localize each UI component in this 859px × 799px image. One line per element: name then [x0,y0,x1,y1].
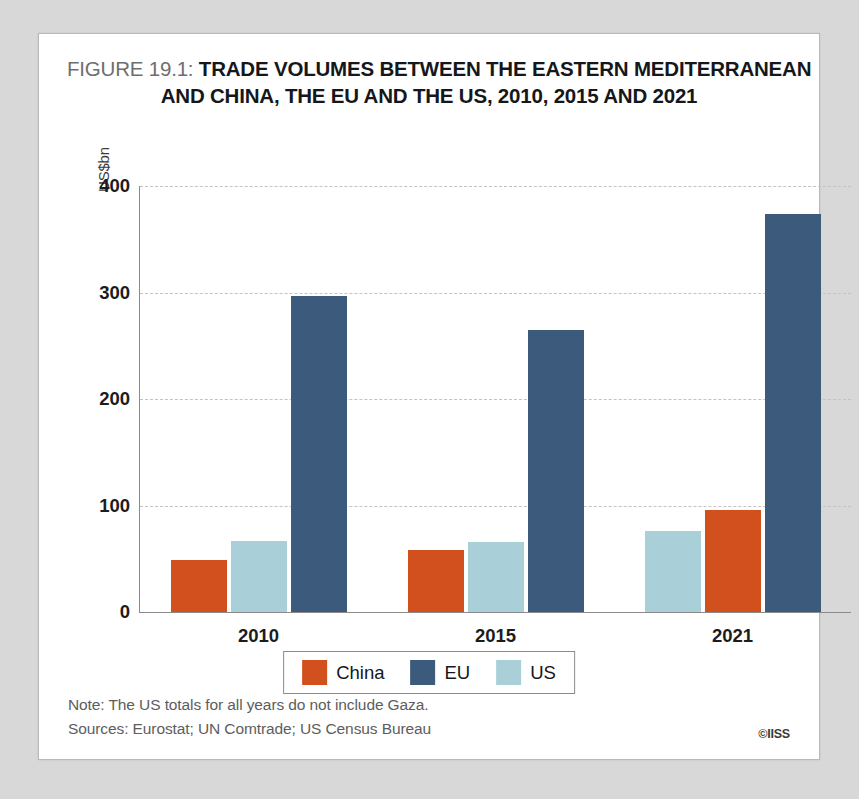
legend-item-china[interactable]: China [302,660,384,685]
copyright-mark: ©IISS [758,727,790,741]
bar-china-2015 [408,550,464,612]
bar-china-2021 [705,510,761,612]
title-line-1: FIGURE 19.1: TRADE VOLUMES BETWEEN THE E… [67,56,791,83]
y-axis-tick-label: 200 [99,388,130,410]
legend-label: China [336,662,384,684]
figure-title: FIGURE 19.1: TRADE VOLUMES BETWEEN THE E… [39,56,819,109]
sources-text: Sources: Eurostat; UN Comtrade; US Censu… [68,717,790,741]
legend-swatch-china-icon [302,660,327,685]
gridline [140,186,851,187]
figure-footer: Note: The US totals for all years do not… [68,693,790,741]
bar-us-2010 [231,541,287,612]
legend-item-us[interactable]: US [496,660,556,685]
gridline [140,399,851,400]
y-axis-tick-label: 0 [120,601,130,623]
y-axis-tick-label: 100 [99,495,130,517]
bar-china-2010 [171,560,227,612]
bar-eu-2010 [291,296,347,612]
legend-label: EU [444,662,470,684]
x-axis-tick-label: 2010 [238,625,279,647]
y-axis-tick-label: 300 [99,282,130,304]
legend-swatch-us-icon [496,660,521,685]
legend-label: US [530,662,556,684]
x-axis-tick-label: 2021 [712,625,753,647]
figure-title-text-1: TRADE VOLUMES BETWEEN THE EASTERN MEDITE… [199,57,811,80]
plot-area: 0100200300400201020152021 [139,186,851,613]
bar-eu-2021 [765,214,821,612]
gridline [140,506,851,507]
chart-legend: ChinaEUUS [283,651,575,694]
bar-eu-2015 [528,330,584,612]
figure-title-text-2: AND CHINA, THE EU AND THE US, 2010, 2015… [67,83,791,110]
bar-us-2015 [468,542,524,612]
figure-number: FIGURE 19.1: [67,57,193,80]
gridline [140,293,851,294]
legend-item-eu[interactable]: EU [410,660,470,685]
figure-card: FIGURE 19.1: TRADE VOLUMES BETWEEN THE E… [38,33,820,760]
x-axis-tick-label: 2015 [475,625,516,647]
y-axis-tick-label: 400 [99,175,130,197]
note-text: Note: The US totals for all years do not… [68,693,790,717]
legend-swatch-eu-icon [410,660,435,685]
bar-us-2021 [645,531,701,612]
